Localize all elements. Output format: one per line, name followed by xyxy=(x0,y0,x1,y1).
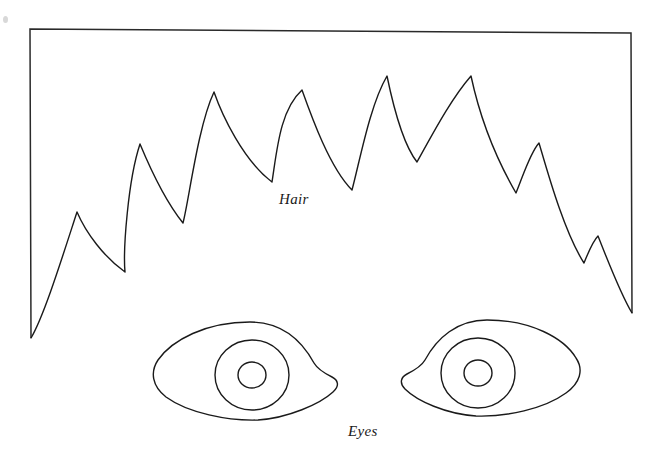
right-eye-pupil xyxy=(464,360,492,386)
hair-label: Hair xyxy=(279,191,309,208)
left-eye-pupil xyxy=(238,362,266,388)
eyes-label: Eyes xyxy=(348,423,378,440)
left-eye-outline xyxy=(153,322,337,420)
line-drawing xyxy=(0,0,665,460)
hair-outline xyxy=(31,76,632,338)
left-eye-iris xyxy=(215,340,289,410)
drawing-canvas: Hair Eyes xyxy=(0,0,665,460)
right-eye-iris xyxy=(441,338,515,408)
frame-border xyxy=(30,29,632,338)
